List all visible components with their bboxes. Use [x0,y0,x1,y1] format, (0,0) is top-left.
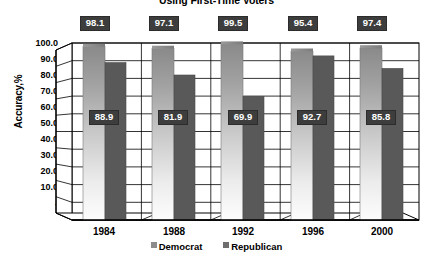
x-tick-1992: 1992 [213,226,273,237]
value-label-democrat-1996: 95.4 [288,16,318,31]
value-label-republican-2000: 85.8 [366,110,396,125]
legend-swatch-democrat-icon [151,242,157,248]
legend-item-democrat: Democrat [151,240,203,252]
bar-group-1996 [291,49,334,221]
x-tick-1984: 1984 [74,226,134,237]
bar-group-2000 [360,45,403,220]
legend-label-democrat: Democrat [159,241,203,252]
legend-swatch-republican-icon [223,242,229,248]
x-tick-1988: 1988 [144,226,204,237]
chart-legend: Democrat Republican [0,240,433,252]
x-tick-2000: 2000 [352,226,412,237]
value-label-democrat-2000: 97.4 [357,16,387,31]
legend-item-republican: Republican [223,240,282,252]
value-label-democrat-1988: 97.1 [149,16,179,31]
value-label-democrat-1984: 98.1 [80,16,110,31]
value-label-republican-1988: 81.9 [158,110,188,125]
value-label-democrat-1992: 99.5 [218,16,248,31]
x-tick-1996: 1996 [283,226,343,237]
value-label-republican-1984: 88.9 [89,110,119,125]
bar-chart: Using First-Time Voters Accuracy,% 100.0… [0,0,433,268]
value-label-republican-1996: 92.7 [297,110,327,125]
legend-label-republican: Republican [231,241,282,252]
bar-group-1984 [83,44,126,220]
value-label-republican-1992: 69.9 [228,110,258,125]
